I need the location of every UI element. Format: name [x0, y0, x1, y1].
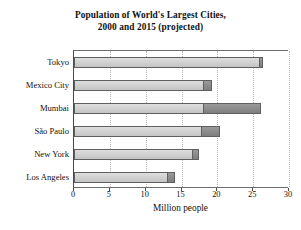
bar-segment-2015	[259, 58, 262, 67]
plot-area	[73, 50, 288, 188]
chart-title-line-1: Population of World's Largest Cities,	[0, 9, 301, 21]
bar-row	[74, 120, 288, 143]
bar-segment-2015	[203, 104, 260, 113]
bar-segment-2000	[75, 58, 259, 67]
x-tick-label-15: 15	[169, 190, 193, 199]
bar-segment-2000	[75, 127, 201, 136]
gridline-x-30	[289, 51, 290, 187]
bar-segment-2000	[75, 173, 167, 182]
bar-row	[74, 74, 288, 97]
y-tick-label-new-york: New York	[34, 149, 69, 159]
x-tick-label-25: 25	[240, 190, 264, 199]
bar-row	[74, 166, 288, 189]
bar-segment-2000	[75, 104, 203, 113]
bar-segment-2015	[167, 173, 174, 182]
y-axis-labels: TokyoMexico CityMumbaiSão PauloNew YorkL…	[0, 50, 69, 188]
x-tick-label-10: 10	[133, 190, 157, 199]
y-tick-label-s-o-paulo: São Paulo	[34, 126, 69, 136]
y-tick-label-mumbai: Mumbai	[40, 103, 69, 113]
bar-row	[74, 97, 288, 120]
bar-tokyo	[74, 57, 263, 68]
x-tick-label-0: 0	[61, 190, 85, 199]
bar-segment-2015	[203, 81, 211, 90]
chart-title-line-2: 2000 and 2015 (projected)	[0, 21, 301, 33]
bar-segment-2015	[201, 127, 219, 136]
y-tick-label-los-angeles: Los Angeles	[26, 172, 69, 182]
x-tick-label-5: 5	[97, 190, 121, 199]
chart-figure: Population of World's Largest Cities, 20…	[0, 0, 301, 230]
x-tick-label-30: 30	[276, 190, 300, 199]
bar-s-o-paulo	[74, 126, 220, 137]
bar-los-angeles	[74, 172, 175, 183]
bar-segment-2000	[75, 150, 192, 159]
bar-row	[74, 143, 288, 166]
chart-title: Population of World's Largest Cities, 20…	[0, 9, 301, 33]
bar-row	[74, 51, 288, 74]
bar-mumbai	[74, 103, 261, 114]
bar-mexico-city	[74, 80, 212, 91]
y-tick-label-tokyo: Tokyo	[47, 57, 69, 67]
y-tick-label-mexico-city: Mexico City	[26, 80, 69, 90]
bar-new-york	[74, 149, 199, 160]
x-axis-title: Million people	[73, 203, 288, 213]
bar-segment-2000	[75, 81, 203, 90]
x-tick-label-20: 20	[204, 190, 228, 199]
bar-segment-2015	[192, 150, 198, 159]
